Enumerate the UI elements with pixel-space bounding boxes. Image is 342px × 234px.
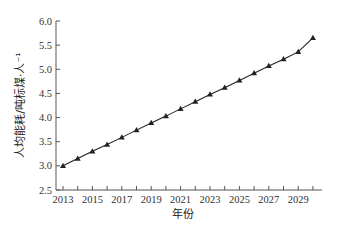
y-axis-ticks: 2.53.03.54.04.55.05.56.0 [39,16,60,196]
x-tick-label: 2015 [82,194,103,205]
x-tick-label: 2019 [141,194,162,205]
x-tick-label: 2029 [288,194,309,205]
triangle-marker-icon [310,35,316,40]
x-tick-label: 2021 [170,194,191,205]
x-tick-label: 2023 [200,194,221,205]
x-tick-label: 2027 [258,194,279,205]
y-tick-label: 4.0 [39,112,52,123]
x-tick-label: 2025 [229,194,250,205]
axes [56,21,322,190]
y-tick-label: 2.5 [39,185,52,196]
line-chart: 2.53.03.54.04.55.05.56.0 201320152017201… [0,0,342,234]
y-tick-label: 4.5 [39,88,52,99]
data-series [60,35,316,168]
x-axis-title: 年份 [172,207,194,221]
y-tick-label: 5.5 [39,40,52,51]
x-axis-ticks: 201320152017201920212023202520272029 [53,186,313,205]
y-axis-title: 人均能耗/吨标煤·人⁻¹ [13,52,27,157]
y-tick-label: 3.0 [39,160,52,171]
series-line [63,38,313,166]
x-tick-label: 2017 [111,194,132,205]
y-tick-label: 6.0 [39,16,52,27]
x-tick-label: 2013 [53,194,74,205]
y-tick-label: 5.0 [39,64,52,75]
y-tick-label: 3.5 [39,136,52,147]
